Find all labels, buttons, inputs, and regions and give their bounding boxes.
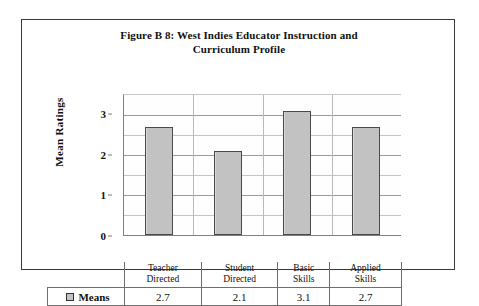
figure-title-line-1: Figure B 8: West Indies Educator Instruc… — [62, 28, 416, 42]
y-axis-tick-labels: 0 1 2 3 — [84, 94, 112, 236]
y-axis-title: Mean Ratings — [53, 77, 65, 187]
category-label-line-1: Basic — [278, 263, 329, 274]
bar-slot-basic-skills — [263, 95, 332, 235]
bar-slot-student-directed — [193, 95, 262, 235]
bar-teacher-directed[interactable] — [145, 127, 173, 235]
category-label-line-2: Directed — [125, 274, 201, 285]
category-cell-teacher-directed: Teacher Directed — [125, 262, 202, 288]
table-row-categories: Teacher Directed Student Directed Basic … — [48, 262, 402, 288]
bar-student-directed[interactable] — [214, 151, 242, 235]
category-cell-basic-skills: Basic Skills — [278, 262, 330, 288]
y-tick-label-2: 2 — [101, 149, 107, 161]
y-tick-label-0: 0 — [101, 230, 107, 242]
plot-area — [123, 94, 401, 236]
bar-series-means — [124, 95, 401, 235]
category-cell-student-directed: Student Directed — [201, 262, 278, 288]
bar-slot-teacher-directed — [124, 95, 193, 235]
legend-label-means: Means — [78, 291, 109, 303]
value-cell-teacher-directed: 2.7 — [125, 288, 202, 306]
figure-title-line-2: Curriculum Profile — [62, 42, 416, 56]
bar-slot-applied-skills — [332, 95, 401, 235]
bar-applied-skills[interactable] — [352, 127, 380, 235]
chart-area: Mean Ratings 0 1 2 3 — [22, 68, 454, 268]
figure-title: Figure B 8: West Indies Educator Instruc… — [62, 28, 416, 56]
y-tick-label-1: 1 — [101, 189, 107, 201]
y-tick-label-3: 3 — [101, 108, 107, 120]
category-label-line-2: Skills — [330, 274, 401, 285]
category-label-line-1: Student — [202, 263, 278, 274]
data-table: Teacher Directed Student Directed Basic … — [47, 262, 402, 306]
category-label-line-1: Applied — [330, 263, 401, 274]
category-row-spacer — [48, 262, 125, 288]
series-color-swatch-icon — [66, 293, 74, 301]
bar-basic-skills[interactable] — [283, 111, 311, 235]
value-cell-applied-skills: 2.7 — [330, 288, 402, 306]
category-label-line-2: Skills — [278, 274, 329, 285]
table-row-means: Means 2.7 2.1 3.1 2.7 — [48, 288, 402, 306]
value-cell-basic-skills: 3.1 — [278, 288, 330, 306]
value-cell-student-directed: 2.1 — [201, 288, 278, 306]
category-label-line-2: Directed — [202, 274, 278, 285]
category-label-line-1: Teacher — [125, 263, 201, 274]
category-cell-applied-skills: Applied Skills — [330, 262, 402, 288]
figure-frame: Figure B 8: West Indies Educator Instruc… — [21, 19, 455, 270]
legend-cell-means: Means — [48, 288, 125, 306]
